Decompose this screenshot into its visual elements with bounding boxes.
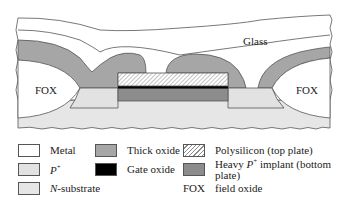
legend-label: Heavy P+ implant (bottom plate) [215, 157, 355, 182]
legend-item-fox: FOX field oxide [183, 180, 262, 196]
legend-label: Thick oxide [127, 144, 180, 156]
legend-item-thick-oxide: Thick oxide [95, 142, 180, 158]
metal-swatch [18, 144, 40, 157]
legend-label: N-substrate [50, 182, 100, 194]
legend-item-p-plus: P+ [18, 161, 61, 177]
polysilicon-top-plate [118, 73, 228, 86]
legend-item-polysilicon: Polysilicon (top plate) [183, 142, 313, 158]
n-substrate-swatch [18, 182, 40, 195]
p-plus-swatch [18, 163, 40, 176]
legend-item-metal: Metal [18, 142, 76, 158]
fox-abbr: FOX [183, 182, 215, 194]
legend: Metal P+ N-substrate Thick oxide Gate ox… [0, 135, 355, 208]
polysilicon-swatch [183, 144, 205, 157]
fox-right-label: FOX [296, 84, 318, 96]
heavy-p-implant [118, 88, 228, 101]
legend-item-heavy-p-implant: Heavy P+ implant (bottom plate) [183, 161, 355, 177]
heavy-p-implant-swatch [183, 163, 205, 176]
thick-oxide-swatch [95, 144, 117, 157]
glass-label: Glass [243, 35, 267, 47]
legend-label: Metal [50, 144, 76, 156]
legend-label: P+ [50, 163, 61, 176]
legend-item-gate-oxide: Gate oxide [95, 161, 175, 177]
legend-label: Gate oxide [127, 163, 175, 175]
capacitor-cross-section: Glass FOX FOX [0, 0, 355, 135]
legend-label: Polysilicon (top plate) [215, 144, 313, 156]
legend-item-n-substrate: N-substrate [18, 180, 100, 196]
gate-oxide-swatch [95, 163, 117, 176]
legend-label: field oxide [215, 182, 262, 194]
fox-left-label: FOX [35, 84, 57, 96]
